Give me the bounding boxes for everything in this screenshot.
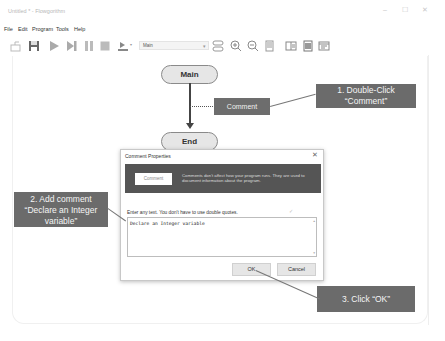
menu-help[interactable]: Help	[74, 26, 85, 32]
flow-arrow	[189, 83, 191, 125]
flow-node-comment[interactable]: Comment	[214, 98, 270, 115]
menu-bar: File Edit Program Tools Help	[0, 24, 445, 34]
callout-step-1: 1. Double-Click “Comment”	[316, 84, 416, 108]
menu-edit[interactable]: Edit	[18, 26, 27, 32]
function-dropdown-value: Main	[143, 43, 153, 48]
run-icon[interactable]	[48, 40, 60, 52]
callout-text: “Declare an Integer	[14, 205, 108, 216]
scroll-down-icon[interactable]: ▼	[313, 251, 315, 255]
save-icon[interactable]	[28, 40, 40, 52]
callout-step-3: 3. Click “OK”	[317, 286, 415, 312]
toolbar: ▾	[0, 37, 445, 55]
document-icon[interactable]	[264, 40, 276, 52]
open-icon[interactable]	[10, 40, 22, 52]
stop-icon[interactable]	[99, 40, 111, 52]
layout-icon[interactable]	[212, 40, 224, 52]
dialog-close-button[interactable]: ✕	[312, 151, 318, 159]
dialog-banner: Comment Comments don't affect how your p…	[125, 164, 321, 193]
comment-textarea[interactable]: Declare an Integer variable ▲ ▼	[127, 217, 317, 257]
speed-icon[interactable]	[117, 40, 129, 52]
flow-node-main[interactable]: Main	[161, 65, 218, 84]
minimize-button[interactable]: –	[383, 6, 387, 13]
dialog-title: Comment Properties	[125, 153, 171, 159]
console-window-icon[interactable]	[285, 40, 297, 52]
comment-type-badge: Comment	[135, 173, 172, 185]
comment-properties-dialog: Comment Properties ✕ Comment Comments do…	[120, 149, 324, 281]
comment-link	[190, 106, 215, 107]
callout-text: 1. Double-Click	[316, 85, 416, 96]
pause-icon[interactable]	[83, 40, 95, 52]
callout-text: 3. Click “OK”	[342, 294, 390, 304]
dialog-prompt: Enter any text. You don't have to use do…	[127, 210, 238, 215]
scroll-up-icon[interactable]: ▲	[313, 219, 315, 223]
zoom-in-icon[interactable]	[230, 40, 242, 52]
speed-dropdown-arrow-icon[interactable]: ▾	[130, 42, 132, 47]
comment-text-value: Declare an Integer variable	[130, 221, 205, 226]
step-icon[interactable]	[66, 40, 78, 52]
arrowhead-icon	[186, 123, 194, 129]
menu-tools[interactable]: Tools	[56, 26, 69, 32]
source-window-icon[interactable]	[318, 40, 330, 52]
callout-text: “Comment”	[316, 96, 416, 107]
window-title: Untitled * - Flowgorithm	[8, 8, 65, 14]
title-bar: Untitled * - Flowgorithm – ☐ ✕	[0, 0, 445, 22]
panel-divider	[428, 55, 429, 325]
variable-window-icon[interactable]	[302, 40, 314, 52]
chevron-down-icon: ▾	[203, 42, 206, 50]
callout-text: 2. Add comment	[14, 194, 108, 205]
zoom-out-icon[interactable]	[247, 40, 259, 52]
close-window-button[interactable]: ✕	[422, 6, 428, 14]
cancel-button[interactable]: Cancel	[277, 263, 316, 276]
callout-text: variable”	[14, 216, 108, 227]
check-icon: ✓	[289, 208, 293, 214]
banner-description: Comments don't affect how your program r…	[182, 173, 314, 183]
function-dropdown[interactable]: Main ▾	[139, 41, 209, 50]
maximize-button[interactable]: ☐	[402, 6, 408, 14]
callout-step-2: 2. Add comment “Declare an Integer varia…	[14, 192, 108, 227]
menu-program[interactable]: Program	[32, 26, 53, 32]
menu-file[interactable]: File	[4, 26, 13, 32]
